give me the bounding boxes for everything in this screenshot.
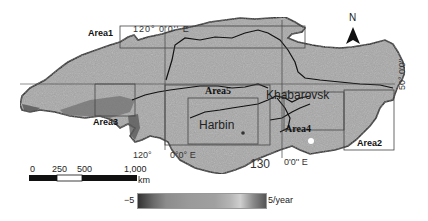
scale-tick-0: 0 bbox=[30, 165, 35, 174]
scale-unit: km bbox=[138, 176, 150, 185]
harbin-label: Harbin bbox=[199, 119, 234, 131]
bottom-longitude-130-suffix: 0'0'' E bbox=[284, 158, 308, 167]
area1-label: Area1 bbox=[88, 29, 113, 38]
top-longitude-label: 120° 0'0'' E bbox=[133, 25, 190, 34]
bottom-longitude-120-label: 120° bbox=[133, 151, 152, 160]
area5-label: Area5 bbox=[205, 86, 231, 96]
scale-seg-2 bbox=[57, 175, 82, 181]
area4-label: Area4 bbox=[285, 124, 311, 134]
bottom-longitude-120-suffix: 0°0° E bbox=[170, 151, 196, 160]
legend-color-bar bbox=[137, 193, 267, 209]
bottom-longitude-130-label: 130 bbox=[250, 158, 270, 170]
area2-label: Area2 bbox=[357, 139, 382, 148]
harbin-marker bbox=[241, 131, 245, 135]
scale-tick-250: 250 bbox=[52, 165, 67, 174]
scale-tick-500: 500 bbox=[77, 165, 92, 174]
right-latitude-label: 50° 0'0'' bbox=[398, 59, 407, 90]
north-arrow-icon bbox=[346, 27, 360, 44]
khabarovsk-label: Khabarovsk bbox=[266, 89, 329, 101]
north-label: N bbox=[349, 13, 356, 23]
scale-seg-3 bbox=[82, 175, 137, 181]
area3-label: Area3 bbox=[93, 118, 118, 127]
scale-seg-1 bbox=[29, 175, 57, 181]
legend-min-label: −5 bbox=[124, 196, 134, 205]
basin-map bbox=[0, 0, 428, 221]
legend-max-label: 5/year bbox=[268, 196, 293, 205]
white-spot bbox=[308, 138, 314, 144]
scale-tick-1000: 1,000 bbox=[124, 165, 147, 174]
